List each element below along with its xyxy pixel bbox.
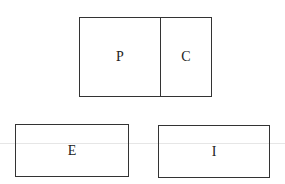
- box-e: E: [15, 124, 129, 177]
- label-i: I: [212, 144, 217, 160]
- box-c: C: [160, 17, 212, 97]
- box-i: I: [158, 125, 270, 178]
- box-p: P: [79, 17, 161, 97]
- label-e: E: [68, 143, 77, 159]
- label-c: C: [181, 49, 190, 65]
- label-p: P: [116, 49, 124, 65]
